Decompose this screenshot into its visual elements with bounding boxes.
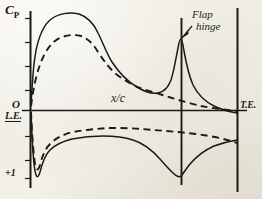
axis-group [22,8,247,192]
flap-hinge-annotation-line1: Flap [192,8,213,20]
y-axis-bottom-tick-label: +1 [5,168,16,178]
y-axis-ticks [25,19,30,179]
flap-hinge-annotation-line2: hinge [196,21,220,32]
flap-hinge-annotation: Flap hinge [192,9,220,32]
origin-label: O [12,99,20,110]
curve-upper-surface-dashed [31,35,237,111]
plot-canvas [0,0,262,199]
y-axis-label-subscript: P [14,10,20,20]
y-axis-label-main: C [5,2,14,17]
flap-hinge-pointer-icon [182,26,192,38]
figure-pressure-distribution: CP O L.E. +1 x/c T.E. Flap hinge [0,0,262,199]
curve-lower-surface-solid [31,113,237,177]
y-axis-label: CP [5,3,19,20]
trailing-edge-label: T.E. [240,100,256,110]
x-axis-label: x/c [111,92,125,104]
leading-edge-label: L.E. [5,111,22,121]
